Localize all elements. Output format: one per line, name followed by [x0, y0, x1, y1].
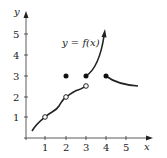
x-tick-2: 2 [63, 142, 69, 153]
closed-point-4-3 [104, 74, 109, 79]
curve-arrow-icon [102, 29, 107, 38]
curve-segment-3 [106, 76, 138, 86]
y-tick-1: 1 [13, 112, 19, 123]
function-label: y = f(x) [61, 37, 100, 48]
y-tick-2: 2 [13, 92, 19, 103]
closed-point-3-3 [84, 74, 89, 79]
y-axis-label: y [13, 6, 20, 17]
open-point-2-2 [64, 95, 69, 100]
y-axis-arrow-icon [24, 11, 29, 18]
y-tick-5: 5 [13, 29, 19, 40]
x-axis-label: x [144, 141, 150, 152]
x-tick-4: 4 [103, 142, 109, 153]
open-point-1-1 [43, 115, 48, 120]
open-point-3-2.5 [84, 84, 89, 89]
x-tick-1: 1 [42, 142, 48, 153]
function-graph: y x 1 2 3 4 5 1 2 3 4 5 y = f(x) [0, 0, 167, 158]
closed-point-2-3 [64, 74, 69, 79]
x-tick-3: 3 [83, 142, 89, 153]
x-tick-5: 5 [123, 142, 129, 153]
y-tick-3: 3 [13, 71, 19, 82]
curve-segment-1 [32, 86, 86, 131]
y-tick-4: 4 [13, 50, 19, 61]
x-axis-arrow-icon [146, 136, 153, 141]
